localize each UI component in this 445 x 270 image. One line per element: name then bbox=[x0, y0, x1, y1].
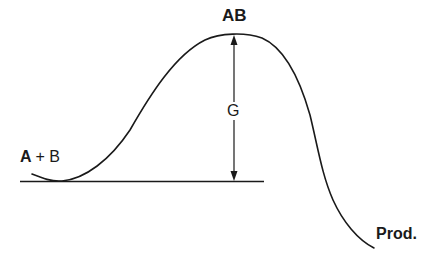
transition-state-label: AB bbox=[222, 7, 247, 24]
arrow-down-icon bbox=[231, 171, 238, 181]
reactants-label: A + B bbox=[20, 149, 60, 165]
energy-curve bbox=[32, 34, 374, 248]
plus-sign: + bbox=[35, 148, 44, 165]
products-label: Prod. bbox=[376, 226, 417, 242]
energy-gap-label: G bbox=[227, 102, 239, 120]
reactant-a: A bbox=[20, 148, 31, 165]
energy-diagram: AB A + B G Prod. bbox=[0, 0, 445, 270]
reactant-b: B bbox=[49, 148, 60, 165]
arrow-up-icon bbox=[231, 35, 238, 45]
